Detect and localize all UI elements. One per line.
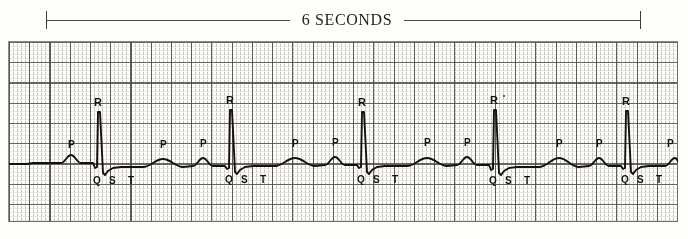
wave-label-p-after-beat5: P <box>667 139 674 149</box>
wave-label-p-pre-beat4: P <box>464 138 471 148</box>
ecg-waveform-trace <box>9 42 678 222</box>
wave-label-t-beat5: T <box>656 175 662 185</box>
caliper-end-tick <box>640 11 641 29</box>
wave-label-p-after-beat2: P <box>292 139 299 149</box>
wave-label-q-beat1: Q <box>93 176 101 186</box>
wave-label-t-beat3: T <box>392 175 398 185</box>
wave-label-r-beat4: R <box>490 95 498 106</box>
wave-label-t-beat1: T <box>128 176 134 186</box>
wave-label-s-beat2: S <box>241 175 248 185</box>
wave-label-p-pre-beat2: P <box>200 139 207 149</box>
caliper-line-right <box>404 20 641 21</box>
wave-label-p-after-beat1: P <box>160 140 167 150</box>
wave-label-s-beat4: S <box>505 176 512 186</box>
wave-label-s-beat5: S <box>637 175 644 185</box>
wave-label-q-beat3: Q <box>357 175 365 185</box>
wave-label-p-after-beat3: P <box>424 138 431 148</box>
wave-label-p-after-beat4: P <box>556 139 563 149</box>
ecg-rhythm-strip: 6 SECONDS R P Q S T P R P Q S T P R P <box>0 0 688 239</box>
wave-label-t-beat4: T <box>524 176 530 186</box>
caliper-label: 6 SECONDS <box>290 6 404 34</box>
wave-label-q-beat4: Q <box>489 176 497 186</box>
wave-label-p-before-beat1: P <box>68 140 75 150</box>
wave-label-q-beat5: Q <box>621 175 629 185</box>
wave-label-s-beat1: S <box>109 176 116 186</box>
wave-label-q-beat2: Q <box>225 175 233 185</box>
wave-label-r-beat1: R <box>94 97 102 108</box>
ecg-trace-path <box>9 110 678 175</box>
wave-label-p-pre-beat3: P <box>332 138 339 148</box>
six-second-caliper: 6 SECONDS <box>0 0 688 40</box>
wave-label-r-beat2: R <box>226 95 234 106</box>
ecg-graph-paper: R P Q S T P R P Q S T P R P Q S T P R P … <box>8 41 678 222</box>
wave-label-r-beat3: R <box>358 97 366 108</box>
wave-label-t-beat2: T <box>260 175 266 185</box>
wave-label-p-pre-beat5: P <box>596 139 603 149</box>
wave-label-s-beat3: S <box>373 175 380 185</box>
wave-label-r-beat5: R <box>622 96 630 107</box>
caliper-line-left <box>46 20 290 21</box>
